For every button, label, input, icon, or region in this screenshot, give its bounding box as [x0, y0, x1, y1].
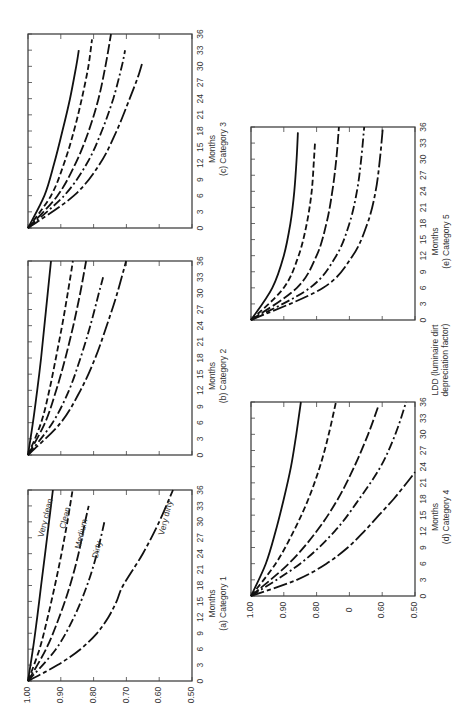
month-tick-label: 27 [195, 533, 205, 543]
month-tick-label: 18 [418, 494, 428, 504]
month-tick-label: 30 [418, 154, 428, 164]
curve-clean [251, 143, 315, 320]
month-tick-label: 0 [195, 678, 205, 683]
month-tick-label: 18 [195, 353, 205, 363]
months-axis-label: Months [430, 228, 440, 256]
month-tick-label: 21 [195, 110, 205, 120]
month-tick-label: 18 [195, 126, 205, 136]
curve-label-dirty: Dirty [90, 539, 104, 559]
month-tick-label: 30 [195, 61, 205, 71]
chart--d-category-4: 03691215182124273033361.000.900.8000.600… [245, 397, 451, 618]
month-tick-label: 3 [418, 301, 428, 306]
curve-medium [28, 261, 86, 455]
chart--b-category-2: 0369121518212427303336Months(b) Category… [28, 256, 228, 457]
ldd-tick-label: 0.60 [376, 601, 386, 618]
ldd-axis-label-line1: LDD (luminaire dirt [430, 324, 440, 395]
ldd-tick-label: 0.50 [186, 686, 196, 703]
month-tick-label: 9 [418, 545, 428, 550]
month-tick-label: 12 [418, 251, 428, 261]
curve-label-clean: Clean [57, 506, 72, 530]
month-tick-label: 6 [418, 561, 428, 566]
chart--a-category-1: 03691215182124273033361.000.900.800.700.… [22, 485, 228, 703]
ldd-tick-label: 0 [344, 607, 354, 612]
months-axis-label: Months [207, 590, 217, 618]
month-tick-label: 0 [195, 452, 205, 457]
chart--c-category-3: 0369121518212427303336Months(c) Category… [28, 29, 228, 230]
month-tick-label: 0 [418, 317, 428, 322]
ldd-tick-label: 0.70 [121, 686, 131, 703]
month-tick-label: 15 [195, 142, 205, 152]
month-tick-label: 36 [418, 397, 428, 407]
ldd-tick-label: 0.90 [278, 601, 288, 618]
curve-label-very-clean: Very clean [36, 497, 55, 538]
month-tick-label: 3 [418, 577, 428, 582]
month-tick-label: 36 [195, 29, 205, 39]
month-tick-label: 12 [195, 158, 205, 168]
curve-label-medium: Medium [72, 518, 89, 550]
month-tick-label: 15 [195, 369, 205, 379]
month-tick-label: 3 [195, 662, 205, 667]
month-tick-label: 15 [418, 235, 428, 245]
month-tick-label: 12 [418, 526, 428, 536]
month-tick-label: 18 [418, 219, 428, 229]
months-axis-label: Months [430, 503, 440, 531]
month-tick-label: 24 [418, 462, 428, 472]
month-tick-label: 27 [195, 78, 205, 88]
ldd-axis-label-line2: depreciation factor) [440, 323, 450, 396]
month-tick-label: 21 [195, 337, 205, 347]
curve-very-clean [251, 402, 301, 596]
ldd-tick-label: 0.60 [153, 686, 163, 703]
chart-caption: (d) Category 4 [441, 490, 451, 545]
month-tick-label: 6 [195, 193, 205, 198]
ldd-tick-label: 0.80 [311, 601, 321, 618]
plot-frame [251, 127, 415, 320]
ldd-tick-label: 0.90 [55, 686, 65, 703]
month-tick-label: 15 [418, 510, 428, 520]
chart-caption: (e) Category 5 [441, 214, 451, 269]
month-tick-label: 21 [195, 565, 205, 575]
month-tick-label: 0 [195, 225, 205, 230]
curve-medium [251, 127, 339, 320]
month-tick-label: 21 [418, 202, 428, 212]
month-tick-label: 24 [195, 549, 205, 559]
month-tick-label: 24 [195, 321, 205, 331]
curve-dirty [251, 127, 364, 320]
month-tick-label: 24 [418, 186, 428, 196]
month-tick-label: 30 [195, 517, 205, 527]
months-axis-label: Months [207, 362, 217, 390]
month-tick-label: 9 [195, 404, 205, 409]
month-tick-label: 6 [418, 285, 428, 290]
month-tick-label: 33 [418, 138, 428, 148]
ldd-tick-label: 0.50 [409, 601, 419, 618]
month-tick-label: 27 [418, 446, 428, 456]
chart-caption: (b) Category 2 [218, 349, 228, 404]
month-tick-label: 15 [195, 596, 205, 606]
chart-caption: (a) Category 1 [218, 576, 228, 631]
months-axis-label: Months [207, 135, 217, 163]
month-tick-label: 36 [195, 485, 205, 495]
month-tick-label: 33 [195, 272, 205, 282]
month-tick-label: 3 [195, 436, 205, 441]
figure-page: 03691215182124273033361.000.900.800.700.… [0, 0, 465, 715]
month-tick-label: 9 [418, 269, 428, 274]
ldd-tick-label: 0.80 [88, 686, 98, 703]
ldd-tick-label: 1.00 [22, 686, 32, 703]
month-tick-label: 36 [418, 122, 428, 132]
month-tick-label: 27 [418, 170, 428, 180]
plot-frame [28, 34, 192, 228]
month-tick-label: 18 [195, 581, 205, 591]
chart-caption: (c) Category 3 [218, 122, 228, 176]
month-tick-label: 36 [195, 256, 205, 266]
month-tick-label: 33 [418, 413, 428, 423]
month-tick-label: 33 [195, 45, 205, 55]
month-tick-label: 27 [195, 305, 205, 315]
month-tick-label: 3 [195, 209, 205, 214]
month-tick-label: 9 [195, 631, 205, 636]
plot-frame [28, 261, 192, 455]
month-tick-label: 0 [418, 593, 428, 598]
curve-medium [251, 407, 378, 596]
month-tick-label: 9 [195, 177, 205, 182]
month-tick-label: 30 [195, 288, 205, 298]
chart--e-category-5: 0369121518212427303336Months(e) Category… [251, 122, 451, 322]
month-tick-label: 6 [195, 420, 205, 425]
